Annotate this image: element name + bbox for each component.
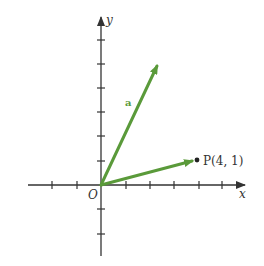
x-axis: x [28, 181, 246, 201]
vector-a: a [101, 66, 157, 185]
point-p: P(4, 1) [195, 154, 244, 168]
vector-diagram: x y O a [0, 0, 264, 266]
y-axis: y [97, 13, 113, 256]
origin-label: O [88, 188, 98, 202]
vector-op [101, 161, 192, 185]
point-p-label: P(4, 1) [203, 154, 243, 168]
point-p-dot [195, 158, 200, 163]
x-axis-label: x [239, 187, 246, 201]
vector-a-label: a [125, 97, 132, 108]
y-axis-label: y [105, 13, 113, 27]
